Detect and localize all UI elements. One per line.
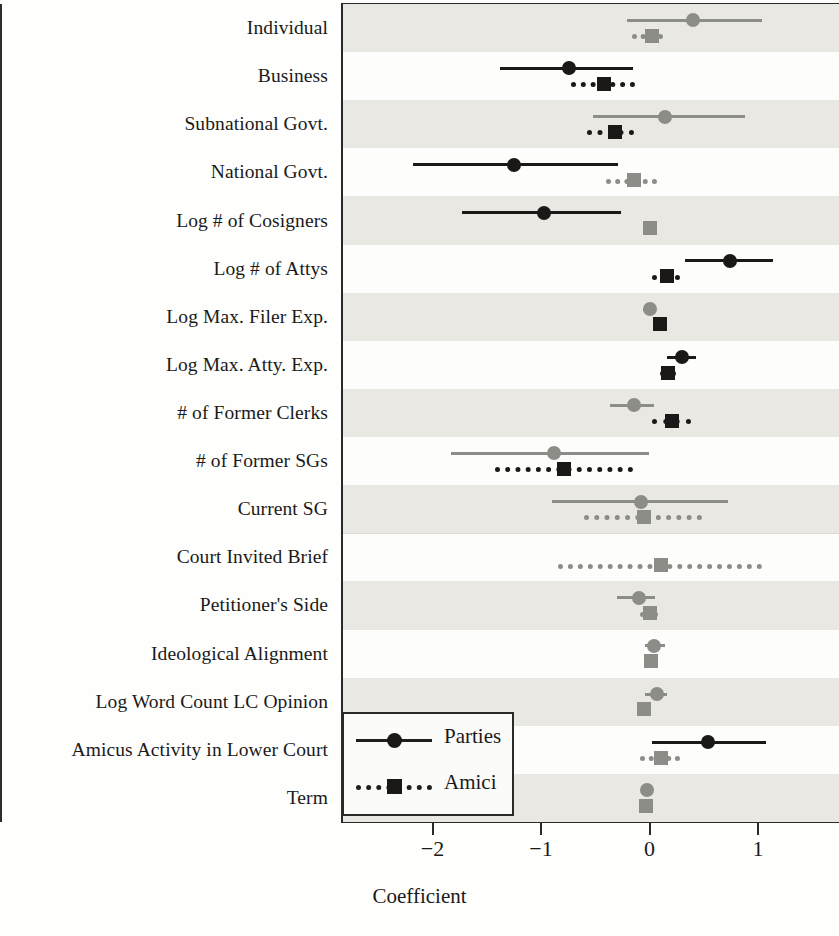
- row-band: [343, 581, 839, 629]
- point-estimate-circle: [632, 591, 646, 605]
- legend-key-parties: [352, 718, 438, 762]
- point-estimate-circle: [647, 639, 661, 653]
- category-label: Log Max. Atty. Exp.: [0, 355, 328, 375]
- legend-label-parties: Parties: [444, 726, 501, 747]
- legend-entry-parties: Parties: [344, 718, 516, 762]
- point-estimate-square: [643, 606, 657, 620]
- legend-key-amici: [352, 764, 438, 808]
- x-axis-tick: [757, 822, 759, 835]
- point-estimate-square: [644, 654, 658, 668]
- x-axis-tick: [432, 822, 434, 835]
- group-separator-line: [343, 533, 839, 534]
- point-estimate-circle: [658, 110, 672, 124]
- point-estimate-square: [597, 77, 611, 91]
- point-estimate-square: [665, 414, 679, 428]
- coefficient-plot-figure: IndividualBusinessSubnational Govt.Natio…: [0, 0, 839, 936]
- x-axis-title: Coefficient: [0, 884, 839, 909]
- x-axis: Coefficient −2−101: [0, 822, 839, 936]
- point-estimate-circle: [537, 206, 551, 220]
- legend-entry-amici: Amici: [344, 764, 516, 808]
- point-estimate-circle: [562, 61, 576, 75]
- category-label: Petitioner's Side: [0, 595, 328, 615]
- square-marker-icon: [387, 779, 402, 794]
- category-label: Subnational Govt.: [0, 114, 328, 134]
- point-estimate-square: [557, 462, 571, 476]
- plot-panel: [343, 4, 839, 822]
- point-estimate-circle: [650, 687, 664, 701]
- row-band: [343, 293, 839, 341]
- point-estimate-circle: [675, 350, 689, 364]
- category-label: Current SG: [0, 499, 328, 519]
- point-estimate-circle: [507, 158, 521, 172]
- x-axis-tick: [649, 822, 651, 835]
- point-estimate-square: [637, 702, 651, 716]
- category-label: Term: [0, 788, 328, 808]
- point-estimate-square: [653, 317, 667, 331]
- category-axis-labels: IndividualBusinessSubnational Govt.Natio…: [0, 4, 336, 820]
- x-axis-tick-label: 1: [753, 838, 764, 860]
- category-label: Log # of Cosigners: [0, 211, 328, 231]
- x-axis-tick-label: 0: [644, 838, 655, 860]
- circle-marker-icon: [387, 733, 402, 748]
- x-axis-tick: [540, 822, 542, 835]
- point-estimate-square: [608, 125, 622, 139]
- point-estimate-circle: [701, 735, 715, 749]
- x-axis-tick-label: −2: [421, 838, 444, 860]
- point-estimate-circle: [723, 254, 737, 268]
- point-estimate-square: [661, 366, 675, 380]
- row-band: [343, 389, 839, 437]
- point-estimate-square: [660, 269, 674, 283]
- row-band: [343, 485, 839, 533]
- category-label: Log # of Attys: [0, 259, 328, 279]
- category-label: Court Invited Brief: [0, 547, 328, 567]
- point-estimate-square: [627, 173, 641, 187]
- point-estimate-circle: [634, 495, 648, 509]
- point-estimate-square: [643, 221, 657, 235]
- legend: Parties Amici: [342, 712, 514, 816]
- point-estimate-circle: [547, 446, 561, 460]
- category-label: # of Former SGs: [0, 451, 328, 471]
- category-label: Individual: [0, 18, 328, 38]
- point-estimate-square: [654, 558, 668, 572]
- legend-label-amici: Amici: [444, 772, 497, 793]
- category-label: Log Word Count LC Opinion: [0, 692, 328, 712]
- category-label: Business: [0, 66, 328, 86]
- row-band: [343, 4, 839, 52]
- category-label: Amicus Activity in Lower Court: [0, 740, 328, 760]
- point-estimate-circle: [643, 302, 657, 316]
- category-label: # of Former Clerks: [0, 403, 328, 423]
- x-axis-tick-label: −1: [529, 838, 552, 860]
- category-label: National Govt.: [0, 162, 328, 182]
- point-estimate-square: [654, 751, 668, 765]
- point-estimate-square: [639, 799, 653, 813]
- point-estimate-square: [645, 29, 659, 43]
- category-label: Ideological Alignment: [0, 644, 328, 664]
- category-label: Log Max. Filer Exp.: [0, 307, 328, 327]
- zero-reference-line: [0, 4, 2, 822]
- row-band: [343, 196, 839, 244]
- row-band: [343, 100, 839, 148]
- point-estimate-square: [637, 510, 651, 524]
